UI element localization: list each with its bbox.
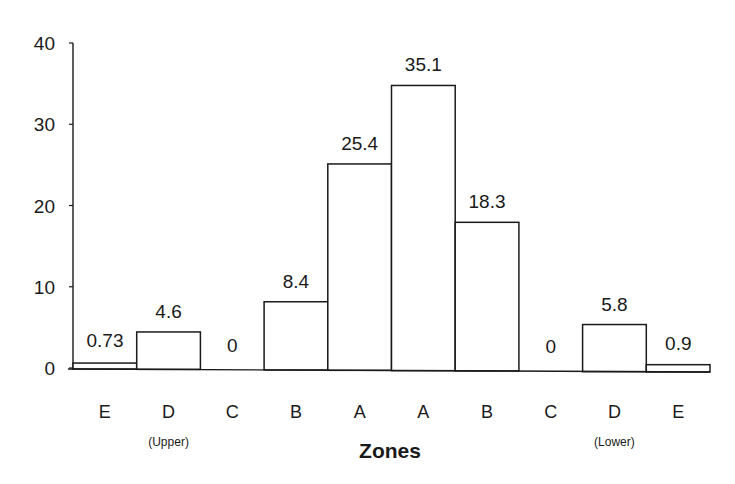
x-category-label: D — [608, 402, 621, 422]
bar — [392, 85, 456, 370]
bar — [137, 332, 201, 369]
bar — [455, 222, 519, 371]
y-tick-label: 20 — [34, 196, 55, 217]
bar-value-label: 25.4 — [341, 133, 378, 154]
bar-value-label: 4.6 — [155, 301, 181, 322]
x-category-label: B — [481, 402, 493, 422]
x-category-label: E — [672, 402, 684, 422]
bar — [646, 365, 710, 372]
bar — [264, 302, 328, 370]
bar-value-label: 18.3 — [469, 191, 506, 212]
y-tick-label: 0 — [44, 358, 55, 379]
bar-value-label: 35.1 — [405, 54, 442, 75]
x-category-label: B — [290, 402, 302, 422]
bar-value-label: 0 — [227, 335, 238, 356]
y-axis: 010203040 — [34, 33, 73, 379]
x-category-label: D — [162, 402, 175, 422]
bars: 0.734.608.425.435.118.305.80.9 — [73, 54, 710, 372]
y-tick-label: 10 — [34, 277, 55, 298]
bar-value-label: 0 — [545, 336, 556, 357]
x-axis-title: Zones — [359, 439, 421, 462]
bar-chart: 010203040 0.734.608.425.435.118.305.80.9… — [0, 0, 735, 484]
bar-value-label: 0.9 — [665, 333, 691, 354]
x-category-label: C — [226, 402, 239, 422]
bar — [583, 325, 647, 372]
y-tick-label: 30 — [34, 114, 55, 135]
x-category-label: E — [99, 402, 111, 422]
y-tick-label: 40 — [34, 33, 55, 54]
bar — [328, 164, 392, 370]
bar — [73, 363, 137, 369]
x-category-label: A — [354, 402, 366, 422]
bar-value-label: 8.4 — [283, 271, 310, 292]
x-axis: EDCBAABCDE(Upper)(Lower) — [68, 369, 710, 449]
bar-value-label: 0.73 — [87, 330, 124, 351]
bar-value-label: 5.8 — [601, 294, 627, 315]
group-annotation: (Lower) — [594, 435, 635, 449]
group-annotation: (Upper) — [148, 435, 189, 449]
x-category-label: A — [417, 402, 429, 422]
x-category-label: C — [544, 402, 557, 422]
